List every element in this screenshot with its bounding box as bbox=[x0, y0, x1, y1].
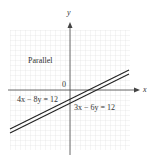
y-axis-arrow-icon bbox=[68, 22, 73, 28]
line2-equation-label: 3x − 6y = 12 bbox=[74, 103, 115, 112]
origin-label: 0 bbox=[62, 80, 66, 89]
x-axis-label: x bbox=[143, 85, 147, 94]
parallel-label: Parallel bbox=[28, 56, 52, 65]
x-axis-arrow-icon bbox=[134, 88, 140, 93]
line1-equation-label: 4x − 8y = 12 bbox=[17, 95, 58, 104]
coordinate-plane bbox=[0, 0, 153, 159]
y-axis-label: y bbox=[67, 8, 71, 17]
